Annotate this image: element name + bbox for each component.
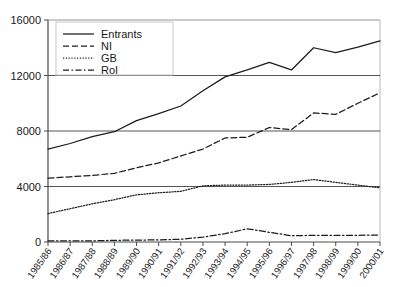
data-series-group [48,41,380,241]
series-line-entrants [48,41,380,149]
gridlines-group [48,20,380,187]
x-axis-labels-group: 1985/861986/871987/881988/891989/901990/… [25,246,386,280]
legend-label-ni: NI [101,40,112,52]
y-axis-labels-group: 0400080001200016000 [10,14,41,248]
legend-items-group: EntrantsNIGBRoI [63,28,142,76]
legend-label-gb: GB [101,52,117,64]
chart-legend: EntrantsNIGBRoI [56,22,173,76]
y-axis-tick-label: 8000 [17,125,41,137]
legend-label-roi: RoI [101,64,118,76]
y-axis-tick-label: 16000 [10,14,41,26]
x-axis-ticks-group [48,242,380,246]
line-chart-container: 0400080001200016000 1985/861986/871987/8… [0,0,401,287]
series-line-gb [48,180,380,214]
chart-canvas: 0400080001200016000 1985/861986/871987/8… [0,0,401,287]
y-axis-tick-label: 0 [35,236,41,248]
y-axis-tick-label: 12000 [10,70,41,82]
legend-label-entrants: Entrants [101,28,142,40]
y-axis-tick-label: 4000 [17,181,41,193]
series-line-roi [48,229,380,241]
